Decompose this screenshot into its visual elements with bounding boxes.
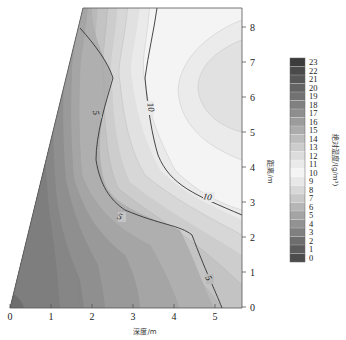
x-axis-title: 深度/m xyxy=(133,327,156,336)
y-axis: 0 1 2 3 4 5 6 7 8 距离/m xyxy=(242,22,275,313)
y-tick-label: 2 xyxy=(250,232,255,243)
x-tick-label: 0 xyxy=(8,311,13,322)
filled-contour-area xyxy=(0,0,250,310)
x-tick-label: 2 xyxy=(90,311,95,322)
colorbar-title: 绝对湿度/(g/m³) xyxy=(331,134,340,187)
x-tick-label: 5 xyxy=(213,311,218,322)
y-tick-label: 6 xyxy=(250,92,255,103)
y-tick-label: 3 xyxy=(250,197,255,208)
y-tick-label: 1 xyxy=(250,267,255,278)
y-tick-label: 5 xyxy=(250,127,255,138)
x-tick-label: 4 xyxy=(172,311,177,322)
colorbar-tick-labels: 23 22 21 20 19 18 17 16 15 14 13 12 11 1… xyxy=(309,57,318,263)
svg-text:0: 0 xyxy=(309,253,313,263)
y-tick-label: 0 xyxy=(250,302,255,313)
contour-chart: 5 10 5 10 5 0 1 2 3 4 5 深度/m xyxy=(0,0,346,340)
y-tick-label: 4 xyxy=(250,162,255,173)
x-axis: 0 1 2 3 4 5 深度/m xyxy=(8,304,218,336)
x-tick-label: 3 xyxy=(131,311,136,322)
colorbar: 23 22 21 20 19 18 17 16 15 14 13 12 11 1… xyxy=(290,57,340,263)
y-axis-title: 距离/m xyxy=(266,160,275,183)
x-tick-label: 1 xyxy=(49,311,54,322)
y-tick-label: 8 xyxy=(250,22,255,33)
y-tick-label: 7 xyxy=(250,57,255,68)
